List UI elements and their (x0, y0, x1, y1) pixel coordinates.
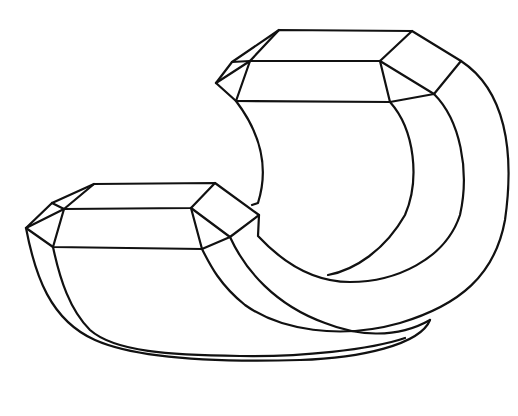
upper-end-cap (216, 30, 461, 102)
tube-edge-1 (328, 102, 413, 275)
lower-end-cap (26, 183, 259, 249)
curved-prism-drawing (0, 0, 518, 416)
tube-edge-2 (258, 94, 464, 282)
tube-edge-4 (230, 237, 430, 334)
tube-edge-5 (53, 247, 405, 356)
inner-concave-edge (236, 101, 263, 205)
drawing-canvas (0, 0, 518, 416)
